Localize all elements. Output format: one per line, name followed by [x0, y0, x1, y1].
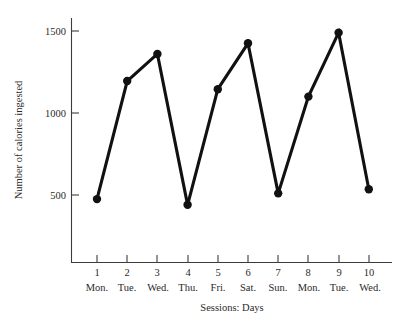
- data-point: [274, 189, 282, 197]
- x-day-labels: Mon. Tue. Wed. Thu. Fri. Sat. Sun. Mon. …: [86, 282, 381, 293]
- data-point: [365, 185, 373, 193]
- x-tick-label-5: 5: [215, 267, 220, 278]
- x-day-label-9: Tue.: [330, 282, 349, 293]
- x-tick-marks: [97, 255, 369, 263]
- x-day-label-6: Sat.: [240, 282, 256, 293]
- x-axis-title: Sessions: Days: [200, 302, 263, 313]
- x-tick-label-2: 2: [124, 267, 129, 278]
- y-tick-label-500: 500: [50, 190, 66, 201]
- data-series-line: [97, 33, 369, 205]
- x-day-label-8: Mon.: [298, 282, 320, 293]
- chart-canvas: 1500 1000 500 Number of calories ingeste…: [0, 0, 404, 326]
- x-tick-label-6: 6: [245, 267, 250, 278]
- y-tick-marks: [72, 31, 80, 195]
- x-day-label-4: Thu.: [178, 282, 198, 293]
- x-day-label-10: Wed.: [359, 282, 381, 293]
- x-tick-label-3: 3: [154, 267, 159, 278]
- data-point: [244, 39, 252, 47]
- data-series-markers: [93, 28, 373, 209]
- x-tick-label-9: 9: [336, 267, 341, 278]
- x-day-label-7: Sun.: [269, 282, 288, 293]
- y-tick-label-1000: 1000: [45, 108, 66, 119]
- x-day-label-2: Tue.: [118, 282, 137, 293]
- x-day-label-3: Wed.: [147, 282, 169, 293]
- x-day-label-5: Fri.: [211, 282, 226, 293]
- data-point: [93, 195, 101, 203]
- x-tick-label-4: 4: [185, 267, 191, 278]
- x-tick-labels: 1 2 3 4 5 6 7 8 9 10: [94, 267, 374, 278]
- y-tick-labels: 1500 1000 500: [45, 26, 66, 201]
- y-tick-label-1500: 1500: [45, 26, 66, 37]
- data-point: [183, 201, 191, 209]
- x-tick-label-7: 7: [275, 267, 280, 278]
- x-tick-label-8: 8: [305, 267, 310, 278]
- x-day-label-1: Mon.: [86, 282, 108, 293]
- data-point: [304, 92, 312, 100]
- data-point: [123, 77, 131, 85]
- y-axis-title: Number of calories ingested: [13, 80, 24, 199]
- data-point: [334, 28, 342, 36]
- x-tick-label-10: 10: [364, 267, 375, 278]
- x-tick-label-1: 1: [94, 267, 99, 278]
- data-point: [153, 50, 161, 58]
- data-point: [214, 85, 222, 93]
- calories-line-chart: 1500 1000 500 Number of calories ingeste…: [0, 0, 404, 326]
